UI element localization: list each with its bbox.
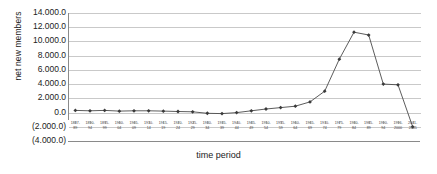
- x-tick-mark: [281, 121, 282, 124]
- x-tick-mark: [134, 121, 135, 124]
- series-line: [75, 32, 412, 127]
- data-point-marker: [205, 111, 209, 115]
- x-tick-mark: [105, 121, 106, 124]
- data-point-marker: [73, 109, 77, 113]
- data-point-marker: [191, 110, 195, 114]
- x-tick-mark: [75, 121, 76, 124]
- x-tick-mark: [193, 121, 194, 124]
- x-tick-mark: [237, 121, 238, 124]
- data-point-marker: [249, 109, 253, 113]
- data-point-marker: [381, 82, 385, 86]
- x-tick-mark: [310, 121, 311, 124]
- x-tick-mark: [119, 121, 120, 124]
- data-point-marker: [117, 109, 121, 113]
- x-tick-mark: [369, 121, 370, 124]
- data-point-marker: [264, 107, 268, 111]
- x-tick-mark: [149, 121, 150, 124]
- data-point-marker: [176, 110, 180, 114]
- x-tick-mark: [354, 121, 355, 124]
- data-point-marker: [396, 83, 400, 87]
- data-point-marker: [367, 33, 371, 37]
- x-tick-mark: [325, 121, 326, 124]
- data-point-marker: [161, 109, 165, 113]
- x-tick-mark: [90, 121, 91, 124]
- x-tick-mark: [163, 121, 164, 124]
- data-point-marker: [103, 109, 107, 113]
- data-point-marker: [220, 112, 224, 116]
- x-tick-mark: [222, 121, 223, 124]
- x-tick-mark: [207, 121, 208, 124]
- x-tick-mark: [251, 121, 252, 124]
- data-point-marker: [411, 125, 415, 129]
- data-point-marker: [147, 109, 151, 113]
- data-point-marker: [132, 109, 136, 113]
- data-series-layer: [0, 0, 437, 174]
- x-tick-mark: [178, 121, 179, 124]
- series-markers: [73, 30, 414, 128]
- x-tick-mark: [266, 121, 267, 124]
- data-point-marker: [352, 30, 356, 34]
- x-tick-mark: [339, 121, 340, 124]
- data-point-marker: [293, 104, 297, 108]
- data-point-marker: [88, 109, 92, 113]
- data-point-marker: [235, 111, 239, 115]
- x-tick-mark: [413, 121, 414, 124]
- x-tick-mark: [383, 121, 384, 124]
- data-point-marker: [337, 57, 341, 61]
- chart-container: net new members 14.000.012.000.010.000.0…: [0, 0, 437, 174]
- x-axis-title: time period: [0, 150, 437, 160]
- data-point-marker: [279, 106, 283, 110]
- x-tick-mark: [398, 121, 399, 124]
- x-tick-mark: [295, 121, 296, 124]
